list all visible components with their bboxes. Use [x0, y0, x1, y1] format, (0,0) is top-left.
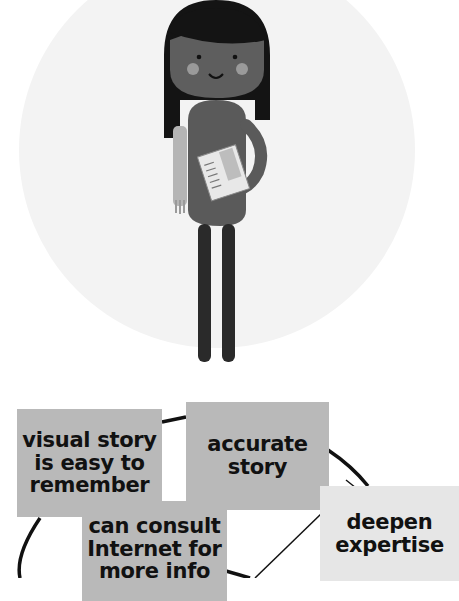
right-eye: [233, 55, 238, 60]
box-accurate-story: accurate story: [186, 402, 329, 510]
box-deepen-expertise: deepen expertise: [320, 486, 459, 581]
box-consult-internet: can consult Internet for more info: [82, 501, 227, 601]
left-cheek: [187, 63, 199, 75]
concept-diagram: visual story is easy to remember accurat…: [0, 380, 459, 578]
right-cheek: [236, 63, 248, 75]
box-deepen-expertise-label: deepen expertise: [335, 511, 444, 556]
box-visual-story-label: visual story is easy to remember: [22, 429, 156, 497]
scarf: [173, 126, 187, 206]
box-consult-internet-label: can consult Internet for more info: [87, 515, 221, 583]
left-leg: [198, 224, 211, 362]
box-accurate-story-label: accurate story: [207, 433, 307, 478]
right-leg: [222, 224, 235, 362]
left-eye: [197, 55, 202, 60]
student-illustration: [0, 0, 459, 380]
